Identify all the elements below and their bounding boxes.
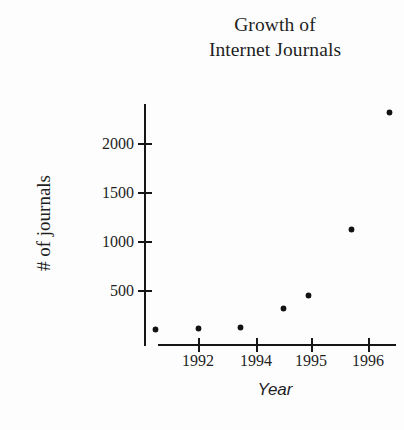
y-axis-tick-label: 1000 (78, 234, 134, 250)
x-axis-tick-label: 1995 (281, 352, 341, 370)
x-axis-tick (198, 338, 200, 352)
x-axis-label: Year (150, 380, 400, 400)
y-axis-tick (138, 143, 152, 145)
y-axis-line (144, 104, 146, 346)
x-axis-line (158, 344, 396, 346)
x-axis-tick (368, 338, 370, 352)
x-axis-tick-label: 1996 (338, 352, 398, 370)
y-axis-tick (138, 241, 152, 243)
data-point (349, 227, 354, 232)
data-point (306, 293, 311, 298)
y-axis-tick-label: 2000 (78, 136, 134, 152)
data-point (153, 327, 158, 332)
data-point (281, 306, 286, 311)
y-axis-tick-label: 500 (78, 283, 134, 299)
x-axis-tick-label: 1992 (168, 352, 228, 370)
y-axis-tick (138, 290, 152, 292)
x-axis-tick (311, 338, 313, 352)
x-axis-tick-label: 1994 (226, 352, 286, 370)
plot-area: 500 1000 1500 2000 1992 1994 1995 1996 (0, 0, 404, 430)
data-point (196, 326, 201, 331)
chart-figure: Growth of Internet Journals 500 1000 150… (0, 0, 404, 430)
x-axis-tick (256, 338, 258, 352)
data-point (387, 110, 392, 115)
y-axis-tick-label: 1500 (78, 185, 134, 201)
data-point (238, 325, 243, 330)
y-axis-tick (138, 192, 152, 194)
y-axis-label: # of journals (33, 143, 55, 303)
